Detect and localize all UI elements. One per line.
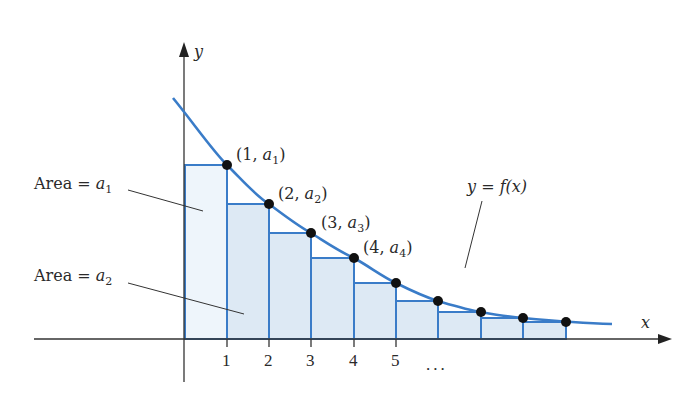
point-3	[306, 228, 316, 238]
x-axis-arrow-icon	[658, 334, 672, 344]
area-label-1-var: a	[96, 174, 106, 193]
point-1	[222, 160, 232, 170]
point-label-3-var: a	[348, 213, 358, 232]
rectangle-5	[354, 283, 396, 339]
riemann-sum-diagram: y x 1 2 3 4 5 ... (1, a1) (2, a2) (3, a3…	[0, 0, 687, 401]
area-label-1-sub: 1	[105, 183, 112, 196]
curve-label-eq: =	[476, 177, 500, 196]
x-tick-ellipsis: ...	[426, 356, 448, 373]
x-tick-label-1: 1	[222, 352, 231, 369]
y-axis-label: y	[194, 44, 203, 60]
point-6	[433, 296, 443, 306]
point-label-3-close: )	[364, 213, 370, 232]
point-label-3: (3, a3)	[321, 215, 370, 231]
curve-label: y = f(x)	[467, 179, 527, 195]
area-label-2-var: a	[96, 266, 106, 285]
curve-label-y: y	[467, 177, 476, 196]
point-5	[391, 278, 401, 288]
point-9	[561, 317, 571, 327]
point-label-2-var: a	[305, 184, 315, 203]
rectangle-2	[227, 204, 269, 339]
point-8	[518, 313, 528, 323]
point-label-4-sub: 4	[399, 247, 406, 260]
rectangle-4	[311, 258, 354, 339]
x-axis-label: x	[641, 315, 650, 331]
point-label-1: (1, a1)	[236, 147, 285, 163]
area-label-1-text: Area =	[34, 174, 96, 193]
point-label-3-open: (3,	[321, 213, 348, 232]
point-label-4-close: )	[406, 238, 412, 257]
rectangle-3	[269, 233, 311, 339]
rectangle-8	[481, 318, 523, 339]
x-tick-label-4: 4	[349, 352, 358, 369]
x-tick-label-2: 2	[264, 352, 273, 369]
rectangle-7	[438, 312, 481, 339]
x-tick-label-3: 3	[306, 352, 315, 369]
point-label-2: (2, a2)	[278, 186, 327, 202]
point-label-4-open: (4,	[363, 238, 390, 257]
point-label-2-sub: 2	[314, 193, 321, 206]
area-label-2-text: Area =	[34, 266, 96, 285]
diagram-canvas	[0, 0, 687, 401]
point-label-2-open: (2,	[278, 184, 305, 203]
area-label-2: Area = a2	[34, 268, 112, 284]
area-label-2-sub: 2	[105, 275, 112, 288]
y-axis-arrow-icon	[179, 42, 189, 57]
point-label-3-sub: 3	[357, 222, 364, 235]
area-label-1: Area = a1	[34, 176, 112, 192]
point-label-1-close: )	[279, 145, 285, 164]
leader-curve-label	[465, 201, 482, 268]
curve-label-arg: (x)	[506, 177, 528, 196]
point-label-1-sub: 1	[272, 154, 279, 167]
point-label-2-close: )	[321, 184, 327, 203]
point-4	[349, 253, 359, 263]
point-label-1-open: (1,	[236, 145, 263, 164]
point-2	[264, 199, 274, 209]
rectangle-6	[396, 301, 438, 339]
point-label-1-var: a	[263, 145, 273, 164]
x-tick-label-5: 5	[391, 352, 400, 369]
rectangle-1	[185, 165, 227, 339]
point-7	[476, 307, 486, 317]
point-label-4: (4, a4)	[363, 240, 412, 256]
rectangle-9	[523, 322, 566, 339]
point-label-4-var: a	[390, 238, 400, 257]
